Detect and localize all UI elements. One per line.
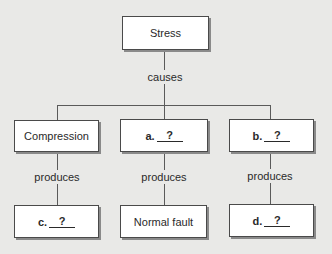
mid-node-2-prefix: a. — [145, 130, 154, 142]
branch-3-relation-label: produces — [247, 169, 292, 183]
leaf-node-1-answer-blank: ? — [49, 216, 75, 228]
leaf-node-2-label: Normal fault — [134, 216, 193, 228]
root-node-stress: Stress — [122, 16, 209, 50]
branch-1-stem-connector — [57, 105, 58, 120]
branch-2-relation-label: produces — [141, 170, 186, 184]
leaf-node-d-blank: d. ? — [229, 204, 314, 237]
root-node-label: Stress — [150, 27, 181, 39]
root-relation-label: causes — [148, 70, 183, 84]
mid-node-1-label: Compression — [24, 130, 89, 142]
leaf-node-c-blank: c. ? — [14, 205, 99, 238]
leaf-node-1-prefix: c. — [38, 216, 47, 228]
branch-1-relation-label: produces — [34, 170, 79, 184]
mid-node-compression: Compression — [14, 120, 99, 152]
branch-3-stem-connector — [270, 105, 271, 120]
mid-node-3-prefix: b. — [253, 130, 263, 142]
mid-node-3-answer-blank: ? — [264, 130, 290, 142]
mid-node-2-answer-blank: ? — [157, 130, 183, 142]
leaf-node-3-prefix: d. — [253, 215, 263, 227]
mid-node-b-blank: b. ? — [229, 119, 314, 152]
branch-2-stem-connector — [164, 105, 165, 120]
leaf-node-normal-fault: Normal fault — [120, 205, 207, 238]
mid-node-a-blank: a. ? — [120, 119, 208, 152]
leaf-node-3-answer-blank: ? — [264, 215, 290, 227]
